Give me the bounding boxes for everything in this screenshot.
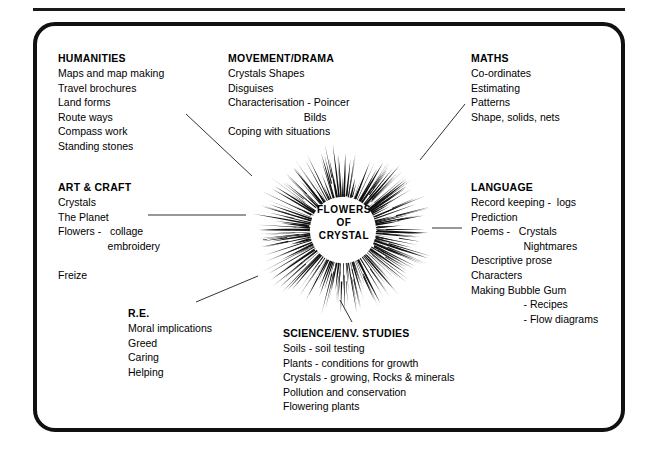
subject-heading: MOVEMENT/DRAMA — [228, 52, 349, 64]
subject-item: Crystals Shapes — [228, 66, 349, 81]
subject-item: Freize — [58, 268, 160, 283]
subject-items: Record keeping - logsPredictionPoems - C… — [471, 195, 598, 326]
subject-item: The Planet — [58, 210, 160, 225]
subject-item: Bilds — [228, 110, 349, 125]
subject-item: Coping with situations — [228, 124, 349, 139]
subject-item: Shape, solids, nets — [471, 110, 560, 125]
subject-item: Plants - conditions for growth — [283, 356, 455, 371]
subject-item: Disguises — [228, 81, 349, 96]
subject-heading: MATHS — [471, 52, 560, 64]
subject-item: Land forms — [58, 95, 164, 110]
subject-block-re: R.E. Moral implicationsGreedCaringHelpin… — [128, 307, 212, 379]
subject-items: Co-ordinatesEstimatingPatternsShape, sol… — [471, 66, 560, 124]
center-label-line-1: FLOWERS — [281, 203, 407, 216]
subject-heading: R.E. — [128, 307, 212, 319]
subject-item: Crystals - growing, Rocks & minerals — [283, 370, 455, 385]
subject-item: Compass work — [58, 124, 164, 139]
subject-item: Greed — [128, 336, 212, 351]
subject-item: Descriptive prose — [471, 253, 598, 268]
subject-item: Soils - soil testing — [283, 341, 455, 356]
subject-heading: ART & CRAFT — [58, 181, 160, 193]
subject-item: Nightmares — [471, 239, 598, 254]
top-divider-rule — [33, 8, 625, 11]
subject-item: Moral implications — [128, 321, 212, 336]
subject-item: Poems - Crystals — [471, 224, 598, 239]
subject-heading: HUMANITIES — [58, 52, 164, 64]
subject-item: - Flow diagrams — [471, 312, 598, 327]
subject-block-language: LANGUAGE Record keeping - logsPrediction… — [471, 181, 598, 326]
subject-item — [58, 253, 160, 268]
subject-item: Flowers - collage — [58, 224, 160, 239]
subject-item: Record keeping - logs — [471, 195, 598, 210]
subject-items: CrystalsThe PlanetFlowers - collage embr… — [58, 195, 160, 283]
subject-item: - Recipes — [471, 297, 598, 312]
subject-item: Travel brochures — [58, 81, 164, 96]
center-label-line-3: CRYSTAL — [281, 229, 407, 242]
subject-item: Characters — [471, 268, 598, 283]
subject-item: Standing stones — [58, 139, 164, 154]
subject-item: Patterns — [471, 95, 560, 110]
subject-items: Maps and map makingTravel brochuresLand … — [58, 66, 164, 154]
subject-items: Crystals ShapesDisguisesCharacterisation… — [228, 66, 349, 139]
subject-heading: LANGUAGE — [471, 181, 598, 193]
subject-item: Flowering plants — [283, 399, 455, 414]
diagram-canvas: FLOWERS OF CRYSTAL HUMANITIES Maps and m… — [0, 0, 658, 453]
subject-item: Maps and map making — [58, 66, 164, 81]
subject-item: Route ways — [58, 110, 164, 125]
subject-item: Crystals — [58, 195, 160, 210]
subject-item: Co-ordinates — [471, 66, 560, 81]
subject-block-art-and-craft: ART & CRAFT CrystalsThe PlanetFlowers - … — [58, 181, 160, 283]
subject-block-maths: MATHS Co-ordinatesEstimatingPatternsShap… — [471, 52, 560, 124]
subject-block-humanities: HUMANITIES Maps and map makingTravel bro… — [58, 52, 164, 154]
center-label-line-2: OF — [281, 216, 407, 229]
subject-items: Moral implicationsGreedCaringHelping — [128, 321, 212, 379]
subject-item: Pollution and conservation — [283, 385, 455, 400]
subject-block-movement-drama: MOVEMENT/DRAMA Crystals ShapesDisguisesC… — [228, 52, 349, 139]
center-label: FLOWERS OF CRYSTAL — [281, 203, 407, 242]
subject-item: Helping — [128, 365, 212, 380]
subject-item: Estimating — [471, 81, 560, 96]
subject-items: Soils - soil testingPlants - conditions … — [283, 341, 455, 414]
subject-heading: SCIENCE/ENV. STUDIES — [283, 327, 455, 339]
subject-item: embroidery — [58, 239, 160, 254]
subject-item: Caring — [128, 350, 212, 365]
subject-block-science-env-studies: SCIENCE/ENV. STUDIES Soils - soil testin… — [283, 327, 455, 414]
subject-item: Prediction — [471, 210, 598, 225]
subject-item: Characterisation - Poincer — [228, 95, 349, 110]
subject-item: Making Bubble Gum — [471, 283, 598, 298]
